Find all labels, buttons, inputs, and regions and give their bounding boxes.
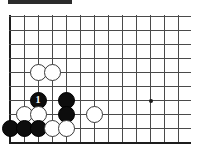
star-point bbox=[149, 99, 153, 103]
grid-line-horizontal bbox=[9, 16, 191, 17]
grid-line-vertical bbox=[94, 15, 95, 143]
grid-line-vertical bbox=[150, 15, 151, 143]
grid-line-vertical bbox=[178, 15, 179, 143]
grid-line-vertical bbox=[122, 15, 123, 143]
stone-white[interactable] bbox=[44, 64, 61, 81]
grid-line-horizontal bbox=[9, 44, 191, 45]
grid-line-vertical bbox=[164, 15, 165, 143]
grid-line-vertical bbox=[80, 15, 81, 143]
go-diagram-figure: 1 bbox=[0, 0, 198, 159]
grid-line-horizontal bbox=[9, 86, 191, 87]
stone-white[interactable] bbox=[58, 120, 75, 137]
grid-line-horizontal bbox=[9, 30, 191, 31]
go-board[interactable]: 1 bbox=[0, 0, 198, 159]
board-edge-bottom bbox=[9, 142, 191, 144]
stone-white[interactable] bbox=[86, 106, 103, 123]
stone-move-number: 1 bbox=[36, 95, 41, 105]
grid-line-horizontal bbox=[9, 58, 191, 59]
grid-line-vertical bbox=[108, 15, 109, 143]
grid-line-vertical bbox=[136, 15, 137, 143]
